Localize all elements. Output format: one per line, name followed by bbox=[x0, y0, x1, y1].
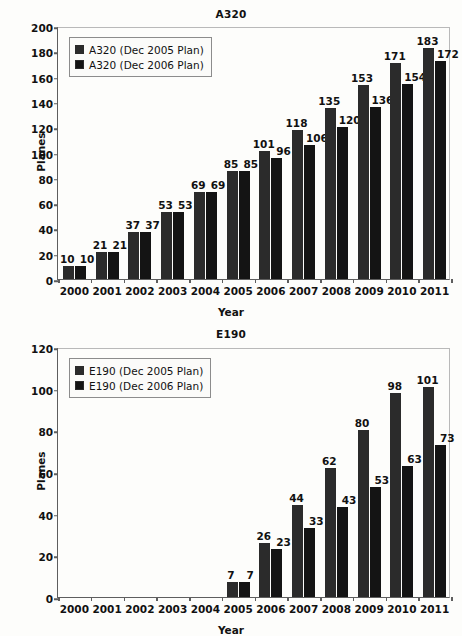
x-tick-label: 2008 bbox=[322, 603, 351, 615]
x-tick-label: 2009 bbox=[355, 603, 384, 615]
x-tick-label: 2011 bbox=[420, 285, 449, 297]
legend-label: A320 (Dec 2006 Plan) bbox=[89, 59, 204, 71]
bar-value-label: 10 bbox=[80, 253, 95, 265]
bar-value-label: 172 bbox=[437, 48, 459, 60]
bar: 53 bbox=[370, 487, 381, 597]
bar: 10 bbox=[75, 266, 86, 279]
bar-value-label: 62 bbox=[322, 455, 337, 467]
bar: 69 bbox=[206, 192, 217, 279]
x-tick-label: 2007 bbox=[289, 285, 318, 297]
bar-value-label: 33 bbox=[309, 515, 324, 527]
x-tick-label: 2003 bbox=[158, 285, 187, 297]
x-tick-mark bbox=[353, 597, 355, 601]
legend-item: E190 (Dec 2006 Plan) bbox=[75, 378, 203, 393]
y-tick-label: 0 bbox=[46, 275, 53, 287]
x-tick-mark bbox=[189, 597, 191, 601]
y-tick-mark bbox=[54, 204, 58, 206]
y-tick-label: 200 bbox=[31, 22, 53, 34]
y-tick-label: 60 bbox=[38, 199, 53, 211]
bar: 135 bbox=[325, 108, 336, 279]
chart-title-e190: E190 bbox=[0, 328, 462, 340]
x-tick-label: 2002 bbox=[125, 285, 154, 297]
y-tick-label: 60 bbox=[38, 468, 53, 480]
bar: 21 bbox=[96, 252, 107, 279]
bar: 23 bbox=[271, 549, 282, 597]
bar: 106 bbox=[304, 145, 315, 279]
legend-item: A320 (Dec 2006 Plan) bbox=[75, 57, 204, 72]
bar: 10 bbox=[63, 266, 74, 279]
legend-label: E190 (Dec 2006 Plan) bbox=[89, 380, 203, 392]
chart-a320: A320 Planes 0204060801001201401601802002… bbox=[0, 0, 462, 318]
chart-e190: E190 Planes 0204060801001202000200120022… bbox=[0, 318, 462, 633]
bar: 101 bbox=[423, 387, 434, 597]
x-tick-mark bbox=[353, 279, 355, 283]
bar-value-label: 85 bbox=[224, 158, 239, 170]
bar-value-label: 96 bbox=[276, 145, 291, 157]
bar-value-label: 7 bbox=[227, 569, 234, 581]
bar-value-label: 69 bbox=[191, 179, 206, 191]
legend-swatch-icon bbox=[75, 60, 84, 69]
x-tick-mark bbox=[156, 279, 158, 283]
x-tick-mark bbox=[91, 597, 93, 601]
bar: 73 bbox=[435, 445, 446, 597]
y-tick-mark bbox=[54, 255, 58, 257]
x-tick-mark bbox=[320, 279, 322, 283]
x-tick-label: 2000 bbox=[60, 285, 89, 297]
x-tick-mark bbox=[58, 279, 60, 283]
x-tick-mark bbox=[124, 279, 126, 283]
y-tick-mark bbox=[54, 78, 58, 80]
bar-value-label: 101 bbox=[253, 138, 275, 150]
y-tick-mark bbox=[54, 53, 58, 55]
x-tick-label: 2006 bbox=[256, 285, 285, 297]
bar: 80 bbox=[358, 430, 369, 597]
y-tick-label: 40 bbox=[38, 510, 53, 522]
x-tick-mark bbox=[287, 597, 289, 601]
x-tick-mark bbox=[58, 597, 60, 601]
bar: 21 bbox=[108, 252, 119, 279]
bar-value-label: 21 bbox=[93, 239, 108, 251]
y-tick-label: 20 bbox=[38, 551, 53, 563]
bar-value-label: 183 bbox=[417, 35, 439, 47]
x-tick-mark bbox=[386, 279, 388, 283]
bar-value-label: 171 bbox=[384, 50, 406, 62]
x-axis-label-a320: Year bbox=[0, 306, 462, 318]
bar-value-label: 37 bbox=[145, 219, 160, 231]
y-tick-mark bbox=[54, 557, 58, 559]
x-tick-label: 2005 bbox=[224, 603, 253, 615]
y-tick-label: 120 bbox=[31, 343, 53, 355]
x-tick-mark bbox=[222, 597, 224, 601]
legend-item: E190 (Dec 2005 Plan) bbox=[75, 363, 203, 378]
x-tick-label: 2001 bbox=[93, 285, 122, 297]
x-tick-mark bbox=[189, 279, 191, 283]
x-tick-label: 2007 bbox=[289, 603, 318, 615]
legend-e190: E190 (Dec 2005 Plan)E190 (Dec 2006 Plan) bbox=[69, 358, 211, 398]
x-tick-mark bbox=[451, 279, 453, 283]
x-tick-label: 2010 bbox=[387, 285, 416, 297]
bar: 85 bbox=[227, 171, 238, 279]
y-tick-label: 100 bbox=[31, 149, 53, 161]
bar-value-label: 80 bbox=[355, 417, 370, 429]
y-tick-label: 0 bbox=[46, 593, 53, 605]
bar: 172 bbox=[435, 61, 446, 279]
bar: 154 bbox=[402, 84, 413, 279]
bar: 37 bbox=[140, 232, 151, 279]
bar-value-label: 53 bbox=[158, 199, 173, 211]
bar: 69 bbox=[194, 192, 205, 279]
bar-value-label: 10 bbox=[60, 253, 75, 265]
x-tick-mark bbox=[156, 597, 158, 601]
bar-value-label: 73 bbox=[440, 432, 455, 444]
x-tick-label: 2009 bbox=[355, 285, 384, 297]
legend-a320: A320 (Dec 2005 Plan)A320 (Dec 2006 Plan) bbox=[69, 37, 212, 77]
bar-value-label: 63 bbox=[407, 453, 422, 465]
bar-value-label: 23 bbox=[276, 536, 291, 548]
y-tick-mark bbox=[54, 154, 58, 156]
y-tick-mark bbox=[54, 128, 58, 130]
x-tick-label: 2003 bbox=[158, 603, 187, 615]
bar: 85 bbox=[239, 171, 250, 279]
chart-title-a320: A320 bbox=[0, 8, 462, 20]
y-tick-label: 120 bbox=[31, 123, 53, 135]
legend-label: E190 (Dec 2005 Plan) bbox=[89, 365, 203, 377]
bar-value-label: 26 bbox=[256, 530, 271, 542]
x-tick-label: 2010 bbox=[387, 603, 416, 615]
x-tick-label: 2001 bbox=[93, 603, 122, 615]
